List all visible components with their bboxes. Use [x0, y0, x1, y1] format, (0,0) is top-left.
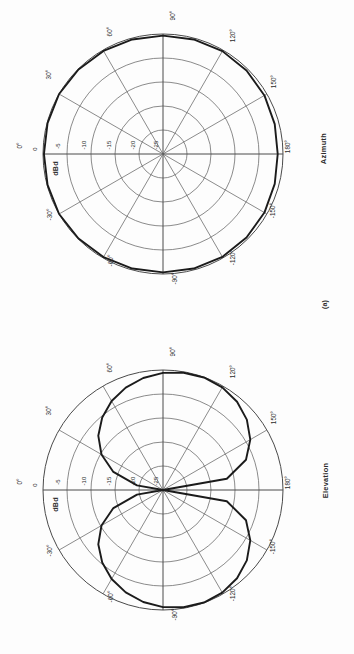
azimuth-radial-label-20: -20 — [130, 141, 136, 150]
spoke--120 — [163, 154, 223, 258]
elevation-radial-label-20: -20 — [130, 477, 136, 486]
spoke--30 — [59, 490, 163, 550]
azimuth-radial-label-15: -15 — [106, 141, 112, 150]
elevation-angle-label-90: 90° — [169, 347, 176, 357]
spoke-120 — [163, 386, 223, 490]
azimuth-polar-svg — [35, 26, 291, 282]
azimuth-angle-label-m120: -120° — [229, 250, 236, 266]
azimuth-angle-label-150: 150° — [270, 75, 277, 88]
azimuth-angle-label-0: 0° — [16, 142, 23, 148]
elevation-polar-plot — [35, 362, 291, 618]
elevation-radial-label-5: -5 — [55, 479, 61, 485]
spoke--30 — [59, 154, 163, 214]
elevation-radial-label-25: -25 — [153, 477, 159, 486]
elevation-angle-label-30: 30° — [45, 406, 52, 416]
elevation-radial-unit: dBd — [51, 497, 60, 512]
azimuth-radial-label-0: 0 — [32, 147, 38, 150]
azimuth-angle-label-m90: -90° — [171, 272, 178, 284]
spoke--60 — [103, 154, 163, 258]
elevation-plot-title: Elevation — [321, 463, 330, 499]
azimuth-angle-label-m150: -150° — [269, 203, 276, 219]
elevation-radial-label-10: -10 — [81, 477, 87, 486]
elevation-angle-label-120: 120° — [229, 365, 236, 378]
elevation-angle-label-m120: -120° — [229, 586, 236, 602]
azimuth-angle-label-90: 90° — [169, 11, 176, 21]
azimuth-radial-label-10: -10 — [81, 141, 87, 150]
elevation-angle-label-m150: -150° — [269, 539, 276, 555]
azimuth-angle-label-m30: -30° — [46, 208, 53, 220]
elevation-angle-label-180: 180° — [284, 476, 291, 489]
spoke-120 — [163, 50, 223, 154]
elevation-angle-label-150: 150° — [270, 411, 277, 424]
azimuth-radial-label-25: -25 — [153, 141, 159, 150]
elevation-angle-label-m30: -30° — [46, 544, 53, 556]
azimuth-plot-title: Azimuth — [319, 133, 328, 164]
spoke-150 — [163, 94, 267, 154]
spoke--150 — [163, 154, 267, 214]
figure-caption: (a) — [320, 300, 329, 309]
azimuth-angle-label-180: 180° — [284, 140, 291, 153]
azimuth-angle-label-60: 60° — [106, 27, 113, 37]
elevation-angle-label-0: 0° — [16, 478, 23, 484]
spoke--120 — [163, 490, 223, 594]
elevation-radial-label-15: -15 — [106, 477, 112, 486]
azimuth-radial-label-5: -5 — [55, 143, 61, 149]
azimuth-radial-unit: dBd — [51, 161, 60, 176]
spoke-60 — [103, 50, 163, 154]
azimuth-angle-label-30: 30° — [45, 70, 52, 80]
elevation-angle-label-m60: -60° — [107, 590, 114, 602]
azimuth-polar-plot — [35, 26, 291, 282]
elevation-polar-svg — [35, 362, 291, 618]
elevation-angle-label-60: 60° — [106, 363, 113, 373]
elevation-angle-label-m90: -90° — [171, 608, 178, 620]
azimuth-figure: 0° 30° 60° 90° 120° 150° 180° -150° -120… — [18, 14, 293, 294]
figure-page: 0° 30° 60° 90° 120° 150° 180° -150° -120… — [0, 0, 354, 654]
azimuth-angle-label-m60: -60° — [107, 254, 114, 266]
elevation-figure: 0° 30° 60° 90° 120° 150° 180° -150° -120… — [18, 348, 293, 633]
elevation-radial-label-0: 0 — [32, 483, 38, 486]
azimuth-angle-label-120: 120° — [229, 29, 236, 42]
